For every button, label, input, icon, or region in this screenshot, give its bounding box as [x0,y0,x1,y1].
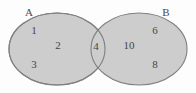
set-a-label: A [25,6,33,18]
region-a-only-value-1: 1 [31,24,37,36]
region-b-only-value-1: 6 [152,24,158,36]
venn-diagram-figure: A B 1 2 3 4 6 10 8 [0,0,196,93]
region-a-only-value-2: 2 [55,39,61,51]
region-a-only-value-3: 3 [31,58,37,70]
region-b-only-value-3: 8 [152,58,158,70]
region-b-only-value-2: 10 [124,39,136,51]
set-b-label: B [162,6,169,18]
region-intersection-value-1: 4 [93,40,99,52]
venn-diagram-canvas: A B 1 2 3 4 6 10 8 [0,0,196,93]
